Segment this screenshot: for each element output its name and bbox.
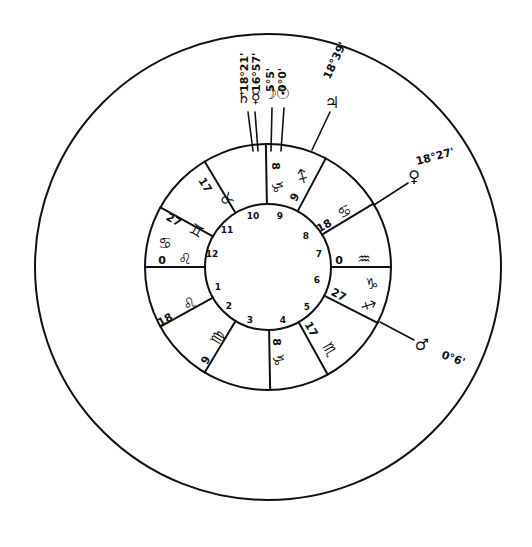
outer-circle <box>35 34 501 500</box>
venus-position-line <box>374 183 408 205</box>
mars-icon: ♂ <box>415 335 429 354</box>
jupiter-degree-label: 18°39' <box>321 40 349 81</box>
zodiac-sign-glyph: ♐ <box>292 166 314 187</box>
house-cusp-line <box>266 144 267 204</box>
moon-position-line <box>271 108 272 151</box>
house-number: 12 <box>206 249 219 259</box>
zodiac-sign-glyph: ♌ <box>179 293 200 315</box>
cusp-degree: 8 <box>269 162 282 170</box>
house-number: 10 <box>247 211 260 221</box>
cusp-degree: 9 <box>198 354 213 367</box>
zodiac-sign-glyph: ♑ <box>269 353 287 366</box>
sun-degree-label: 0°0' <box>276 68 289 92</box>
cusp-degree: 18 <box>314 217 334 236</box>
house-number: 6 <box>314 275 320 285</box>
cusp-degree: 27 <box>164 211 184 230</box>
venus-icon: ♀ <box>408 167 420 186</box>
mars-degree-label: 0°6' <box>440 348 467 368</box>
jupiter-icon: ♃ <box>325 93 339 112</box>
house-number: 2 <box>226 301 232 311</box>
zodiac-sign-glyph: ♍ <box>207 327 229 348</box>
cusp-degree: 0 <box>335 254 343 267</box>
house-number: 8 <box>303 231 309 241</box>
house-number: 11 <box>221 225 234 235</box>
house-number: 1 <box>215 282 221 292</box>
house-number: 7 <box>316 249 322 259</box>
cusp-degree: 27 <box>329 286 349 305</box>
house-number: 9 <box>277 211 283 221</box>
cusp-degree: 18 <box>155 311 175 330</box>
zodiac-sign-glyph: ♒ <box>357 250 370 268</box>
cusp-degree: 9 <box>287 191 302 204</box>
zodiac-sign-glyph: ♋ <box>158 234 171 252</box>
house-number: 4 <box>280 315 286 325</box>
inner-house-circle <box>205 204 331 330</box>
zodiac-sign-glyph: ♋ <box>334 201 355 223</box>
zodiac-sign-glyph: ♉ <box>215 189 237 210</box>
house-number: 3 <box>247 315 253 325</box>
cusp-degree: 17 <box>195 175 214 195</box>
house-numbers: 123456789101112 <box>206 211 322 325</box>
zodiac-sign-glyph: ♑ <box>365 275 378 293</box>
cusp-degree: 8 <box>270 338 283 346</box>
house-number: 5 <box>304 302 310 312</box>
mars-position-line <box>380 322 414 340</box>
zodiac-sign-glyph: ♐ <box>358 294 378 316</box>
zodiac-sign-glyph: ♏ <box>318 339 341 360</box>
venus-degree-label: 18°27' <box>414 145 456 168</box>
mercury-degree-label: 16°57' <box>250 53 263 92</box>
horoscope-chart: 123456789101112 17♉27♊♋0♌18♌9♍8♑17♏27♐♑0… <box>0 0 532 547</box>
jupiter-position-line <box>312 112 330 150</box>
cusp-degree: 0 <box>158 254 166 267</box>
zodiac-sign-glyph: ♌ <box>178 250 191 268</box>
cusp-degree: 17 <box>302 319 321 339</box>
zodiac-sign-glyph: ♑ <box>268 180 286 193</box>
